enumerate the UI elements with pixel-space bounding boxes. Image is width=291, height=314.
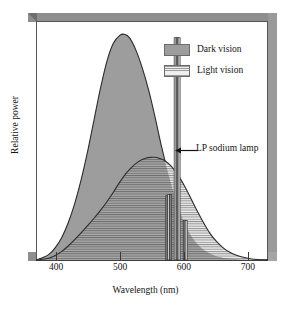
x-axis-tick-labels: 400500600700 xyxy=(0,262,291,276)
x-tick-mark xyxy=(184,252,185,261)
legend-swatch-dark-vision xyxy=(164,44,190,56)
legend-swatch-light-vision xyxy=(164,65,190,77)
legend-label-light-vision: Light vision xyxy=(197,66,243,76)
annotation-lp-sodium-lamp: LP sodium lamp xyxy=(196,143,258,153)
x-tick-label: 600 xyxy=(177,262,191,272)
x-tick-label: 500 xyxy=(113,262,127,272)
legend-item-dark-vision: Dark vision xyxy=(164,44,243,56)
chart-legend: Dark vision Light vision xyxy=(164,44,243,86)
x-tick-label: 400 xyxy=(49,262,63,272)
frame-right-bevel xyxy=(268,13,277,261)
spike-line xyxy=(170,195,172,260)
x-tick-mark xyxy=(248,252,249,261)
legend-label-dark-vision: Dark vision xyxy=(197,45,242,55)
figure-root: Dark vision Light vision LP sodium lamp … xyxy=(0,0,291,314)
spike-line xyxy=(185,221,187,261)
y-axis-label: Relative power xyxy=(10,65,20,185)
x-tick-mark xyxy=(56,252,57,261)
x-tick-label: 700 xyxy=(241,262,255,272)
x-axis-label: Wavelength (nm) xyxy=(0,285,291,295)
x-tick-mark xyxy=(120,252,121,261)
series-light-vision xyxy=(36,157,268,260)
legend-item-light-vision: Light vision xyxy=(164,65,243,77)
